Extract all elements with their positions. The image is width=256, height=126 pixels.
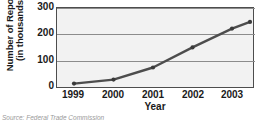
data-markers	[72, 20, 252, 86]
x-axis-title: Year	[56, 101, 254, 112]
source-caption: Source: Federal Trade Commission	[2, 114, 104, 122]
data-point	[151, 65, 155, 69]
chart-figure: Number of Reports (in thousands) 300 200…	[0, 0, 256, 126]
y-tick-label: 200	[28, 28, 54, 38]
data-point	[111, 78, 115, 82]
y-tick-label: 300	[28, 2, 54, 12]
x-tick-label: 2000	[93, 89, 133, 101]
x-tick-label: 2001	[133, 89, 173, 101]
plot-area	[56, 7, 254, 88]
y-axis-title-line1: Number of Reports	[5, 0, 15, 71]
x-tick-label: 2002	[173, 89, 213, 101]
x-tick-label: 2003	[212, 89, 252, 101]
x-tick-label: 1999	[53, 89, 93, 101]
data-point	[72, 82, 76, 86]
data-line	[74, 22, 250, 84]
gridlines	[57, 9, 255, 62]
y-tick-label: 0	[28, 81, 54, 91]
x-tick-label: 2004	[249, 89, 256, 101]
y-axis-title-line2: (in thousands)	[15, 0, 25, 61]
data-point	[190, 45, 194, 49]
y-axis-ticks: 300 200 100 0	[26, 0, 54, 126]
y-tick-label: 100	[28, 55, 54, 65]
data-point	[230, 27, 234, 31]
line-chart-svg	[57, 8, 255, 89]
data-point	[248, 20, 252, 24]
